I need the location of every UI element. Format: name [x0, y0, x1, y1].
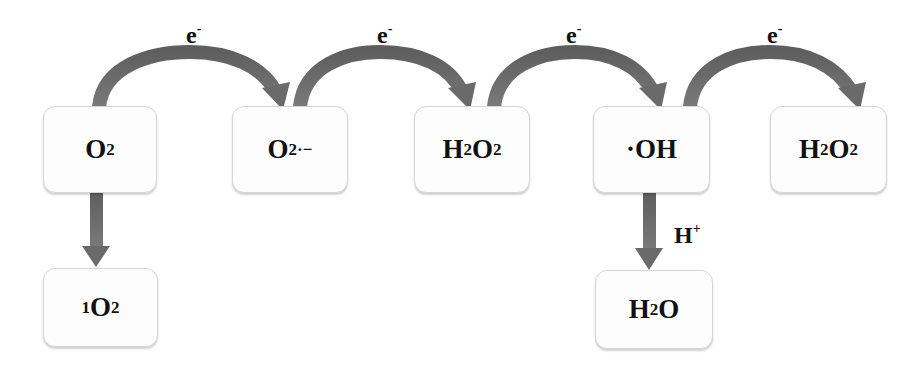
electron-transfer-arrow-3	[494, 52, 667, 110]
electron-label-1: e-	[186, 22, 201, 49]
node-text: O	[85, 134, 106, 165]
node-hydrogen-peroxide-2: H2O2	[770, 106, 887, 193]
node-text: H	[629, 294, 650, 325]
down-arrow-singlet-oxygen	[82, 192, 110, 267]
node-text: O	[658, 294, 679, 325]
electron-symbol: e	[566, 22, 577, 48]
node-text: H	[442, 134, 463, 165]
charge-sup: -	[778, 21, 783, 36]
node-text: O	[829, 134, 850, 165]
node-singlet-oxygen: 1O2	[43, 268, 158, 347]
electron-symbol: e	[767, 22, 778, 48]
electron-symbol: e	[186, 22, 197, 48]
charge-sup: -	[577, 21, 582, 36]
node-hydroxyl-radical: ·OH	[593, 106, 710, 193]
electron-transfer-arrow-2	[300, 52, 476, 110]
charge-sup: -	[388, 21, 393, 36]
electron-label-3: e-	[566, 22, 581, 49]
proton-symbol: H	[674, 222, 693, 248]
charge-sup: +	[693, 221, 701, 236]
node-hydrogen-peroxide-1: H2O2	[414, 106, 530, 193]
node-text: ·OH	[626, 134, 677, 165]
electron-transfer-arrow-4	[690, 52, 866, 110]
node-oxygen: O2	[43, 106, 157, 193]
down-arrow-water	[635, 192, 663, 270]
node-water: H2O	[595, 270, 713, 349]
node-text: O	[90, 292, 111, 323]
node-text: H	[799, 134, 820, 165]
node-superoxide: O2·−	[232, 106, 348, 193]
electron-label-4: e-	[767, 22, 782, 49]
electron-transfer-arrow-1	[99, 52, 290, 110]
electron-symbol: e	[377, 22, 388, 48]
node-text: O	[472, 134, 493, 165]
proton-label: H+	[674, 222, 701, 249]
charge-sup: -	[197, 21, 202, 36]
node-text: O	[268, 134, 289, 165]
electron-label-2: e-	[377, 22, 392, 49]
ros-formation-diagram: e- e- e- e- H+ O2 O2·− H2O2 ·OH H2O2 1O2…	[0, 0, 921, 370]
